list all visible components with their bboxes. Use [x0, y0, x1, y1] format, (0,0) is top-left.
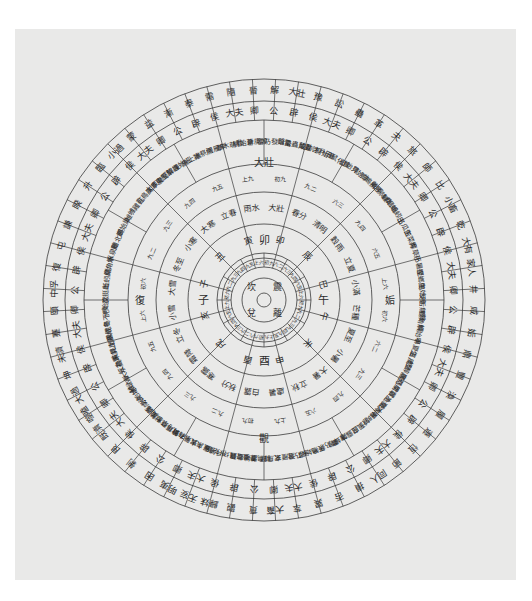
- solar-term-ring-label: 小雪: [167, 303, 178, 320]
- hexagram-outer-label: 隨: [226, 86, 237, 98]
- solar-term-ring-label: 大雪: [166, 279, 178, 296]
- rank-ring-label: 卿: [426, 380, 439, 393]
- line-ring-label: 九五: [146, 339, 158, 353]
- hexagram-outer-label: 同人: [368, 467, 389, 485]
- line-ring-label: 上六: [139, 309, 148, 322]
- line-ring-label: 初六: [139, 278, 148, 291]
- rank-ring-label: 辟: [288, 106, 299, 118]
- rank-ring-label: 公: [70, 285, 80, 295]
- rank-ring-label: 辟: [190, 116, 202, 129]
- line-ring-label: 上九: [242, 175, 255, 184]
- hexagram-outer-label: 比: [433, 179, 447, 193]
- solar-term-ring-label: 小暑: [329, 347, 346, 365]
- line-ring-label: 初六: [380, 309, 389, 322]
- branch-ring-label: 酉: [242, 353, 253, 365]
- hexagram-outer-label: 豫: [313, 90, 325, 103]
- rank-ring-label: 大夫: [186, 469, 207, 486]
- hexagram-outer-label: 噬嗑: [78, 404, 97, 425]
- hexagram-outer-label: 渙: [445, 389, 459, 402]
- line-ring-label: 九四: [354, 219, 368, 233]
- solar-term-ring-label: 芒種: [350, 303, 362, 320]
- hexagram-outer-label: 蹇: [50, 328, 62, 339]
- rank-ring-label: 辟: [70, 265, 82, 276]
- line-ring-label: 九二: [210, 406, 224, 418]
- hexagram-outer-label: 大畜: [266, 504, 285, 516]
- hexagram-outer-label: 既濟: [90, 422, 110, 443]
- hexagram-outer-label: 革: [372, 116, 386, 130]
- rank-ring-label: 卿: [344, 125, 357, 138]
- line-ring-label: 上六: [380, 278, 389, 291]
- rank-ring-label: 辟: [109, 173, 123, 187]
- line-ring-label: 上九: [273, 416, 286, 425]
- rank-ring-label: 大夫: [78, 222, 95, 243]
- line-ring-label: 九四: [331, 390, 345, 404]
- solar-term-ring-label: 冬至: [171, 255, 186, 274]
- hexagram-outer-label: 臨: [93, 161, 107, 175]
- rank-ring-label: 侯: [209, 477, 221, 490]
- rank-ring-label: 卿: [98, 397, 111, 410]
- inner-line-ring-label: 上六: [254, 259, 265, 267]
- rank-ring-label: 侯: [441, 343, 454, 355]
- rank-ring-label: 公: [344, 462, 357, 475]
- hexagram-label-bottom: 觀: [259, 433, 269, 444]
- rank-ring-label: 大夫: [225, 105, 244, 119]
- hexagram-outer-label: 中孚: [48, 280, 60, 299]
- hexagram-outer-label: 乾: [454, 218, 467, 230]
- branch-ring-label: 亥: [198, 310, 211, 322]
- hexagram-outer-label: 遯: [420, 426, 433, 439]
- solar-term-ring-label: 大暑: [311, 365, 330, 383]
- line-ring-label: 九三: [354, 367, 368, 381]
- hexagram-outer-label: 大有: [460, 235, 475, 255]
- rank-ring-label: 辟: [377, 145, 391, 159]
- line-ring-label: 九二: [146, 246, 158, 260]
- rank-ring-label: 卿: [361, 452, 374, 465]
- core-trigram-zhen: 震: [273, 282, 282, 292]
- rank-ring-label: 卿: [70, 305, 80, 315]
- line-ring-label: 九四: [183, 197, 197, 211]
- line-ring-label: 六三: [331, 197, 345, 211]
- line-ring-label: 九三: [161, 219, 175, 233]
- ring-circle: [257, 293, 271, 307]
- branch-ring-label: 午: [317, 310, 330, 322]
- rank-ring-label: 公: [154, 452, 167, 465]
- hexagram-label-right: 姤: [385, 295, 395, 306]
- rank-ring-label: 辟: [137, 441, 151, 455]
- rank-ring-label: 辟: [446, 324, 458, 335]
- hexagram-outer-label: 節: [390, 456, 404, 470]
- rank-ring-label: 卿: [416, 190, 429, 203]
- hexagram-outer-label: 坤: [61, 369, 74, 381]
- hexagram-outer-label: 大壯: [287, 85, 306, 99]
- rank-ring-label: 大夫: [322, 114, 343, 131]
- rank-ring-label: 卿: [269, 484, 279, 494]
- hexagram-outer-label: 損: [353, 481, 366, 495]
- solar-term-ring-label: 立夏: [342, 255, 357, 274]
- solar-term-ring-label: 霜降: [182, 347, 200, 366]
- rank-ring-label: 侯: [441, 245, 454, 257]
- ring-circle: [231, 267, 297, 333]
- line-ring-label: 初九: [242, 416, 255, 425]
- rank-ring-label: 公: [448, 305, 458, 315]
- solar-term-ring-label: 立秋: [290, 378, 309, 393]
- hexagram-outer-label: 蠱: [353, 106, 366, 120]
- hexagram-outer-label: 升: [81, 179, 94, 192]
- solar-term-ring-label: 清明: [311, 218, 330, 236]
- core-trigram-kan: 坎: [247, 281, 256, 292]
- hexagram-outer-label: 漸: [162, 106, 175, 119]
- solar-term-ring-label: 穀雨: [329, 234, 347, 253]
- rank-ring-label: 辟: [229, 482, 240, 494]
- hexagram-label-left: 復: [135, 294, 145, 306]
- hexagram-outer-label: 夬: [390, 129, 404, 143]
- hexagram-outer-label: 姤: [466, 328, 478, 339]
- rank-ring-label: 卿: [172, 462, 185, 475]
- branch-ring-label: 卯: [274, 235, 285, 247]
- solar-term-ring-label: 寒露: [198, 365, 217, 383]
- rank-ring-label: 卿: [448, 285, 458, 295]
- hexagram-outer-label: 歸妹: [199, 496, 219, 511]
- rank-ring-label: 公: [98, 190, 111, 203]
- hexagram-outer-label: 晉: [248, 85, 258, 95]
- core-trigram-li: 離: [273, 307, 282, 318]
- solar-term-ring-label: 小寒: [182, 234, 200, 253]
- solar-term-ring-label: 雨水: [243, 202, 260, 214]
- line-ring-label: 六二: [370, 339, 382, 353]
- line-ring-label: 九四: [161, 367, 175, 381]
